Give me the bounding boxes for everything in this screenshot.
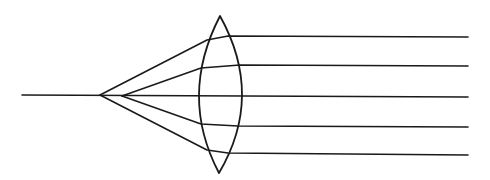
ray-marginal-lower	[100, 95, 468, 155]
optical-axis	[22, 95, 468, 97]
ray-paraxial-lower	[122, 96, 468, 127]
spherical-aberration-diagram	[0, 0, 490, 180]
ray-paraxial-upper	[122, 65, 468, 96]
